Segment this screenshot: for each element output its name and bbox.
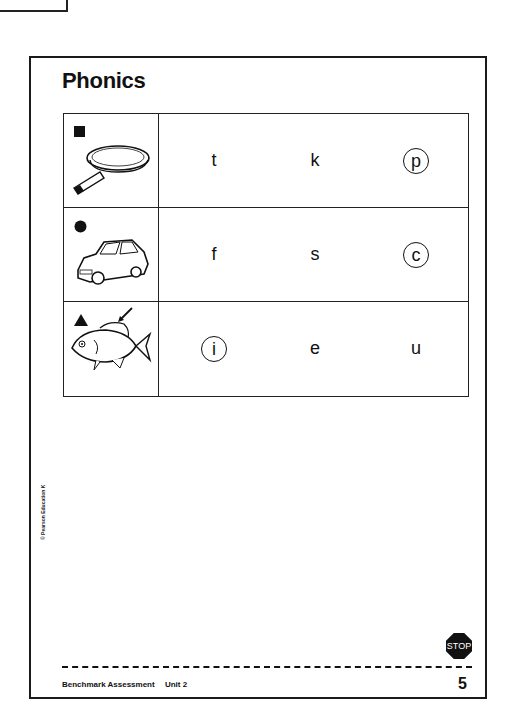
stop-sign-icon: STOP <box>446 633 472 659</box>
letter-choice-circled[interactable]: p <box>403 148 429 174</box>
table-row: i e u <box>64 302 468 396</box>
table-row: t k p <box>64 114 468 208</box>
footer-unit: Unit 2 <box>165 680 187 689</box>
letter-choice[interactable]: f <box>201 242 227 268</box>
picture-cell <box>64 208 159 301</box>
letter-choice-circled[interactable]: c <box>403 242 429 268</box>
letter-choice[interactable]: k <box>302 148 328 174</box>
letter-choice[interactable]: t <box>201 148 227 174</box>
letter-choice[interactable]: e <box>302 336 328 362</box>
letter-choice-circled[interactable]: i <box>201 336 227 362</box>
picture-cell <box>64 302 159 396</box>
page-number: 5 <box>458 675 467 693</box>
picture-cell <box>64 114 159 207</box>
letter-choice[interactable]: u <box>403 336 429 362</box>
footer-book: Benchmark Assessment <box>62 680 155 689</box>
phonics-table: t k p f s c <box>63 113 469 397</box>
copyright-notice: © Pearson Education K <box>40 485 46 540</box>
previous-page-fragment <box>0 0 68 12</box>
page-title: Phonics <box>62 68 145 94</box>
frying-pan-icon <box>70 136 152 198</box>
dashed-divider <box>62 666 472 668</box>
fish-icon <box>66 306 154 372</box>
car-icon <box>70 230 152 292</box>
letter-choice[interactable]: s <box>302 242 328 268</box>
table-row: f s c <box>64 208 468 302</box>
footer-label: Benchmark Assessment Unit 2 <box>62 680 187 689</box>
